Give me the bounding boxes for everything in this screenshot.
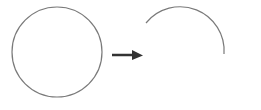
- full-circle: [12, 7, 102, 97]
- arrow-right-icon: [112, 50, 143, 60]
- diagram-canvas: [0, 0, 261, 110]
- partial-arc: [146, 7, 224, 54]
